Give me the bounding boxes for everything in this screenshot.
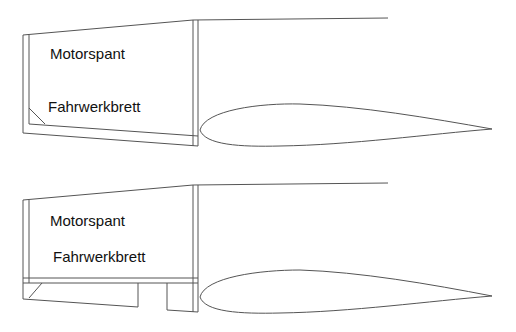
label-fahrwerkbrett: Fahrwerkbrett <box>53 248 146 265</box>
label-motorspant: Motorspant <box>50 212 126 229</box>
fuselage-outline-top <box>23 18 388 146</box>
diagram-bottom: Motorspant Fahrwerkbrett <box>23 183 492 313</box>
airfoil-bottom <box>200 270 492 313</box>
diagram-top: Motorspant Fahrwerkbrett <box>23 18 492 146</box>
fuselage-diagrams: Motorspant Fahrwerkbrett Motorspant Fahr… <box>0 0 516 332</box>
label-fahrwerkbrett: Fahrwerkbrett <box>48 98 141 115</box>
airfoil-top <box>200 104 492 146</box>
label-motorspant: Motorspant <box>50 45 126 62</box>
